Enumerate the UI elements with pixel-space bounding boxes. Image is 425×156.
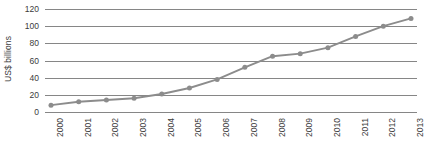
- x-tick-label-2007: 2007: [249, 118, 259, 137]
- data-point-2009: [298, 51, 303, 56]
- data-point-2010: [325, 45, 330, 50]
- data-point-2003: [132, 96, 137, 101]
- y-tick-label: 80: [13, 38, 39, 48]
- data-point-2002: [104, 97, 109, 102]
- x-tick-label-2013: 2013: [415, 118, 425, 137]
- x-tick-label-2000: 2000: [55, 118, 65, 137]
- data-point-2012: [381, 24, 386, 29]
- x-tick-label-2008: 2008: [277, 118, 287, 137]
- data-point-2006: [215, 77, 220, 82]
- y-tick-label: 60: [13, 56, 39, 66]
- x-tick-label-2003: 2003: [138, 118, 148, 137]
- series-polyline: [51, 18, 411, 105]
- x-axis-tick-labels: 2000200120022003200420052006200720082009…: [45, 118, 417, 156]
- data-point-2001: [76, 99, 81, 104]
- x-tick-label-2005: 2005: [193, 118, 203, 137]
- data-point-2004: [159, 91, 164, 96]
- x-tick-label-2010: 2010: [332, 118, 342, 137]
- data-point-2011: [353, 34, 358, 39]
- data-point-2007: [242, 65, 247, 70]
- plot-area: [45, 0, 417, 118]
- x-tick-label-2011: 2011: [360, 118, 370, 136]
- data-point-2005: [187, 85, 192, 90]
- data-point-2008: [270, 54, 275, 59]
- x-tick-label-2001: 2001: [83, 118, 93, 137]
- y-tick-label: 20: [13, 90, 39, 100]
- x-tick-label-2009: 2009: [304, 118, 314, 137]
- x-tick-label-2004: 2004: [166, 118, 176, 137]
- y-tick-label: 100: [13, 21, 39, 31]
- y-axis-tick-labels: 020406080100120: [16, 0, 42, 118]
- y-tick-label: 40: [13, 73, 39, 83]
- x-tick-label-2006: 2006: [221, 118, 231, 137]
- series-line: [45, 0, 417, 118]
- x-tick-label-2012: 2012: [387, 118, 397, 137]
- line-chart: US$ billions 020406080100120 20002001200…: [0, 0, 425, 156]
- x-tick-label-2002: 2002: [110, 118, 120, 137]
- y-axis-title-text: US$ billions: [3, 36, 13, 82]
- y-tick-label: 120: [13, 4, 39, 14]
- data-point-2013: [409, 16, 414, 21]
- data-point-2000: [49, 103, 54, 108]
- y-tick-label: 0: [13, 107, 39, 117]
